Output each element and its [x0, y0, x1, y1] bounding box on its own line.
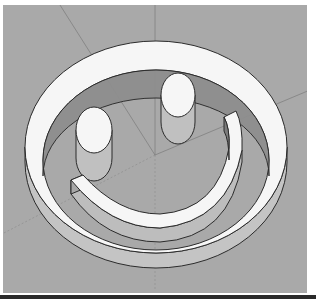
right-eye[interactable] — [161, 73, 195, 144]
left-eye[interactable] — [76, 107, 112, 181]
right-eye-top — [161, 73, 195, 117]
bottom-border — [0, 295, 316, 299]
smiley-3d-model — [3, 5, 307, 293]
model-viewport[interactable] — [3, 5, 307, 293]
left-eye-top — [76, 107, 112, 153]
